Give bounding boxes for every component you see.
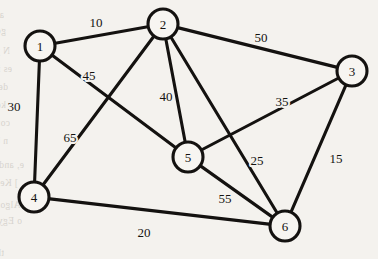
graph-edge-2-4 — [42, 35, 154, 186]
graph-node-label-3: 3 — [349, 64, 356, 79]
graph-edge-weight-5-6: 55 — [219, 191, 232, 206]
graph-node-6: 6 — [270, 211, 300, 241]
graph-figure: as a G t o a point, as Otto is a functio… — [0, 0, 378, 259]
graph-edge-2-6 — [170, 36, 278, 214]
graph-edge-weight-1-5: 45 — [83, 68, 96, 83]
weighted-graph-diagram: 123456 101050503030454565654040252535351… — [0, 0, 378, 259]
graph-edge-3-6 — [291, 84, 347, 213]
graph-edge-weight-3-5: 35 — [276, 94, 289, 109]
graph-edge-1-4 — [35, 60, 40, 183]
graph-edge-weight-2-4: 65 — [64, 130, 77, 145]
graph-node-label-1: 1 — [37, 39, 44, 54]
graph-edge-weight-4-6: 20 — [138, 225, 151, 240]
edges-group — [35, 26, 347, 224]
graph-node-5: 5 — [173, 142, 203, 172]
graph-node-label-4: 4 — [31, 190, 38, 205]
graph-edge-4-6 — [48, 199, 271, 225]
graph-node-2: 2 — [148, 9, 178, 39]
graph-node-1: 1 — [25, 31, 55, 61]
graph-edge-weight-1-4: 30 — [8, 99, 21, 114]
graph-node-3: 3 — [337, 56, 367, 86]
graph-edge-3-5 — [200, 78, 339, 151]
graph-edge-weight-3-6: 15 — [330, 151, 343, 166]
graph-node-label-6: 6 — [282, 219, 289, 234]
graph-edge-weight-2-3: 50 — [255, 30, 268, 45]
graph-node-4: 4 — [19, 182, 49, 212]
graph-edge-weight-2-5: 40 — [160, 89, 173, 104]
graph-node-label-2: 2 — [160, 17, 167, 32]
graph-node-label-5: 5 — [185, 150, 192, 165]
nodes-group: 123456 — [19, 9, 367, 241]
graph-edge-weight-2-6: 25 — [251, 153, 264, 168]
graph-edge-weight-1-2: 10 — [90, 15, 103, 30]
